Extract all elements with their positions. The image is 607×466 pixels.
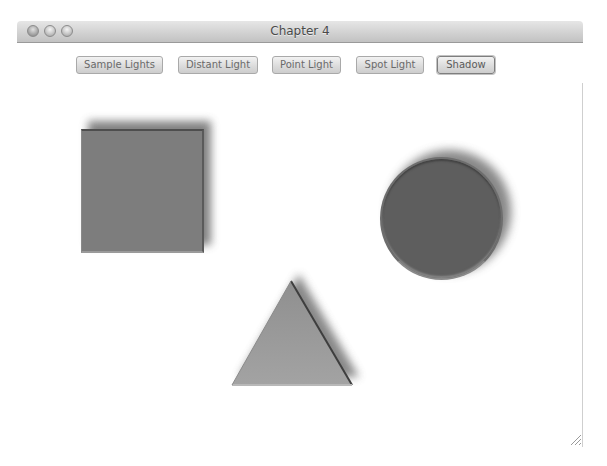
application-window: Chapter 4 Sample Lights Distant Light Po…: [0, 0, 607, 466]
point-light-button[interactable]: Point Light: [272, 56, 341, 74]
window-title: Chapter 4: [17, 24, 583, 38]
distant-light-button[interactable]: Distant Light: [178, 56, 258, 74]
content-border: [582, 83, 583, 447]
triangle-shape[interactable]: [220, 268, 370, 393]
sample-lights-button[interactable]: Sample Lights: [76, 56, 163, 74]
resize-grip-icon[interactable]: [570, 434, 582, 446]
shadow-button[interactable]: Shadow: [437, 56, 495, 74]
square-shape[interactable]: [81, 129, 204, 253]
title-bar[interactable]: Chapter 4: [17, 21, 583, 43]
spot-light-button[interactable]: Spot Light: [356, 56, 424, 74]
circle-shape[interactable]: [380, 157, 503, 280]
